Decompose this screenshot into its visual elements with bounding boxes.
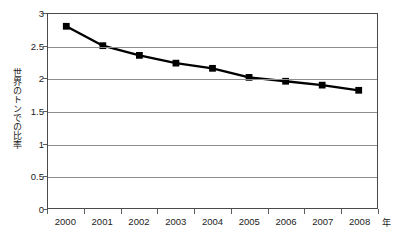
y-axis-tick-mark bbox=[43, 46, 47, 47]
y-axis-tick-mark bbox=[43, 13, 47, 14]
y-axis-tick-label: 2.5 bbox=[22, 40, 44, 51]
x-axis-tick-label: 2008 bbox=[337, 216, 383, 227]
x-axis-tick-mark bbox=[194, 209, 195, 214]
x-axis-tick-mark bbox=[304, 209, 305, 214]
plot-area bbox=[47, 13, 378, 209]
y-axis-tick-mark bbox=[43, 111, 47, 112]
series-line-and-markers bbox=[48, 14, 377, 208]
x-axis-tick-mark bbox=[84, 209, 85, 214]
x-axis-tick-mark bbox=[268, 209, 269, 214]
series-line bbox=[66, 26, 358, 90]
x-axis-tick-mark bbox=[121, 209, 122, 214]
y-axis-tick-mark bbox=[43, 144, 47, 145]
y-axis-tick-mark bbox=[43, 209, 47, 210]
y-axis-tick-label: 1.5 bbox=[22, 106, 44, 117]
data-point-marker bbox=[209, 65, 216, 72]
data-point-marker bbox=[355, 87, 362, 94]
y-axis-tick-label: 1 bbox=[22, 138, 44, 149]
data-point-marker bbox=[173, 60, 180, 67]
x-axis-tick-mark bbox=[47, 209, 48, 214]
x-axis-unit-label: 年 bbox=[382, 216, 391, 229]
y-axis-tick-mark bbox=[43, 176, 47, 177]
gridline bbox=[48, 79, 377, 80]
x-axis-tick-mark bbox=[231, 209, 232, 214]
line-chart: 世界のトンでの比率 32.521.510.50 2000200120022003… bbox=[0, 0, 402, 240]
data-point-marker bbox=[136, 52, 143, 59]
gridline bbox=[48, 145, 377, 146]
y-axis-tick-label: 0.5 bbox=[22, 171, 44, 182]
gridline bbox=[48, 47, 377, 48]
y-axis-tick-label: 2 bbox=[22, 73, 44, 84]
y-axis-tick-mark bbox=[43, 78, 47, 79]
y-axis-tick-label: 0 bbox=[22, 204, 44, 215]
gridline bbox=[48, 177, 377, 178]
x-axis-tick-mark bbox=[157, 209, 158, 214]
y-axis-tick-label: 3 bbox=[22, 8, 44, 19]
data-point-marker bbox=[319, 82, 326, 89]
x-axis-tick-mark bbox=[341, 209, 342, 214]
x-axis-tick-mark bbox=[378, 209, 379, 214]
gridline bbox=[48, 112, 377, 113]
y-axis-tick-labels: 32.521.510.50 bbox=[20, 0, 44, 240]
data-point-marker bbox=[63, 23, 70, 30]
